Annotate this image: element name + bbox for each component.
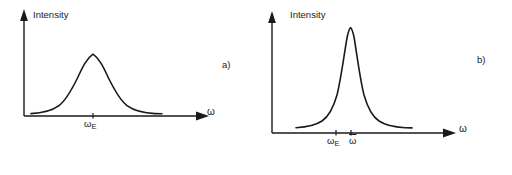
- panel-b-tag: b): [477, 55, 485, 65]
- panel-b-tick-label-omega-bar: ω: [349, 136, 356, 146]
- figure-root: Intensity ω ωE a) Intensity ω ωE ω b): [0, 0, 512, 175]
- panel-a-tick-label-omega-e: ωE: [84, 119, 96, 129]
- panel-b: Intensity ω ωE ω b): [256, 0, 512, 175]
- panel-b-plot: [256, 0, 512, 175]
- panel-a-x-axis-label: ω: [207, 107, 215, 117]
- panel-a-y-axis-label: Intensity: [33, 10, 68, 20]
- panel-a-omega-subscript: E: [91, 122, 96, 131]
- panel-b-x-axis-arrow-icon: [443, 129, 456, 138]
- panel-a-plot: [0, 0, 256, 175]
- panel-b-y-axis-label: Intensity: [290, 10, 325, 20]
- panel-a-y-axis-arrow-icon: [20, 9, 28, 21]
- panel-b-tick-label-omega-e: ωE: [327, 136, 339, 146]
- panel-b-omega-bar-glyph: ω: [349, 135, 356, 146]
- panel-a-tag: a): [222, 60, 230, 70]
- panel-b-curve: [296, 28, 412, 128]
- panel-b-omega-subscript: E: [334, 139, 339, 148]
- panel-a: Intensity ω ωE a): [0, 0, 256, 175]
- panel-b-x-axis-label: ω: [459, 124, 467, 134]
- panel-b-y-axis-arrow-icon: [268, 11, 276, 23]
- panel-a-curve: [31, 54, 162, 113]
